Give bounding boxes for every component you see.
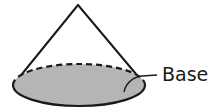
base-label: Base [162, 63, 208, 85]
cone-drawing [0, 0, 220, 110]
cone-diagram: Base [0, 0, 220, 110]
